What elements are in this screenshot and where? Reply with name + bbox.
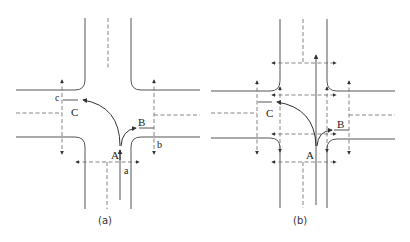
left-turn-path xyxy=(83,100,120,146)
road-edge xyxy=(131,18,200,90)
road-edge xyxy=(16,137,85,209)
right-turn-path xyxy=(317,130,332,146)
panel-a-caption: (a) xyxy=(98,215,112,226)
point-b-label: B xyxy=(337,118,344,130)
panel-b-caption: (b) xyxy=(293,215,307,226)
figure-canvas: C B A c b a (a) xyxy=(0,0,410,242)
road-edge xyxy=(327,139,395,208)
left-turn-path xyxy=(277,102,316,146)
point-b-label: B xyxy=(138,116,145,128)
intersection-diagrams: C B A c b a (a) xyxy=(0,0,410,242)
road-edge xyxy=(16,18,85,90)
point-c-label: C xyxy=(266,107,273,119)
point-a-label: A xyxy=(111,149,119,161)
point-a-label: A xyxy=(306,149,314,161)
road-edge xyxy=(211,19,280,91)
road-edge xyxy=(327,19,395,91)
crosswalk-a-label: a xyxy=(124,165,129,176)
crosswalk-b-label: b xyxy=(157,139,162,150)
right-turn-path xyxy=(121,128,136,146)
crosswalk-c-label: c xyxy=(55,92,60,103)
panel-b: C B A (b) xyxy=(211,19,395,226)
road-edge xyxy=(211,138,280,208)
panel-a: C B A c b a (a) xyxy=(16,18,200,226)
point-c-label: C xyxy=(71,106,78,118)
road-edge xyxy=(131,137,200,209)
